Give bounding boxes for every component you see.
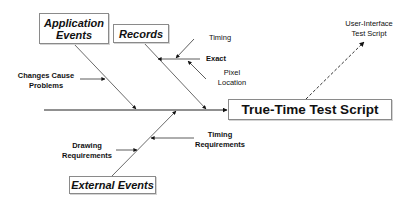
output-label-line2: Test Script [330,29,408,39]
category-external-events-label: External Events [71,179,154,191]
cause-drawing-requirements: Drawing Requirements [58,141,116,161]
arrow-timing [176,39,194,58]
output-label-line1: User-Interface [330,19,408,29]
cause-drawing-line1: Drawing [58,141,116,151]
cause-changes-cause-problems: Changes Cause Problems [12,71,80,91]
cause-changes-line2: Problems [12,81,80,91]
category-records-label: Records [119,28,163,40]
cause-pixel-line2: Location [214,78,250,88]
cause-timing-req-line1: Timing [192,130,248,140]
cause-timing-req-line2: Requirements [192,140,248,150]
cause-timing: Timing [205,33,235,43]
arrow-output-dashed [306,42,364,99]
cause-pixel-line1: Pixel [214,68,250,78]
bone-records [144,43,206,109]
category-records: Records [113,24,169,43]
bone-external-events [112,111,176,176]
output-label-user-interface-test-script: User-Interface Test Script [330,19,408,39]
category-application-events-line2: Events [56,29,92,41]
cause-pixel-location: Pixel Location [214,68,250,88]
category-external-events: External Events [69,176,156,194]
bone-application-events [74,44,136,109]
cause-exact-label: Exact [203,54,229,64]
cause-drawing-line2: Requirements [58,151,116,161]
effect-box-true-time-test-script: True-Time Test Script [228,99,392,120]
cause-changes-line1: Changes Cause [12,71,80,81]
cause-exact: Exact [203,54,229,64]
cause-timing-label: Timing [205,33,235,43]
cause-timing-requirements: Timing Requirements [192,130,248,150]
category-application-events: Application Events [39,13,109,44]
effect-label: True-Time Test Script [242,102,379,117]
category-application-events-line1: Application [44,17,104,29]
